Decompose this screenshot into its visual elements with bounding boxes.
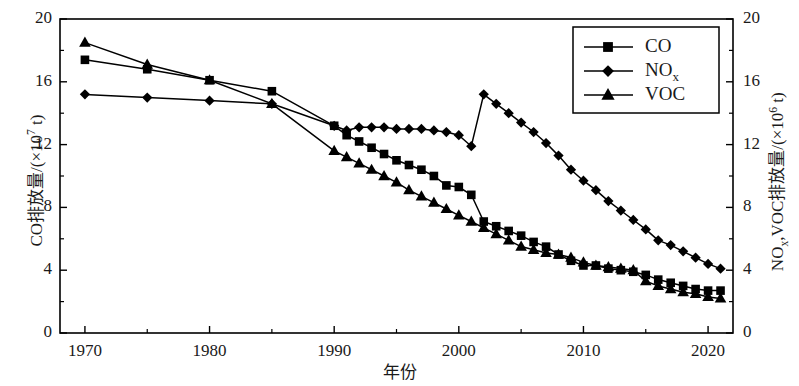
series-marker-nox <box>416 124 426 134</box>
series-marker-co <box>504 227 513 236</box>
series-marker-co <box>392 156 401 165</box>
series-marker-voc <box>341 151 353 161</box>
series-marker-voc <box>79 36 91 46</box>
legend-label-co[interactable]: CO <box>645 35 671 57</box>
y-axis-right-title: NOx,VOC排放量/(×106 t) <box>763 22 790 342</box>
x-axis-tick-label: 1980 <box>175 341 245 361</box>
x-axis-title: 年份 <box>0 358 799 383</box>
series-marker-co <box>430 172 439 181</box>
legend-marker-co <box>603 42 613 52</box>
y-axis-left-tick-label: 0 <box>12 322 52 342</box>
series-marker-co <box>380 150 389 159</box>
series-marker-co <box>355 137 364 146</box>
series-marker-voc <box>453 209 465 219</box>
series-marker-voc <box>465 215 477 225</box>
y-axis-right-tick-label: 12 <box>743 134 783 154</box>
series-marker-voc <box>441 203 453 213</box>
series-marker-co <box>455 183 464 192</box>
series-marker-nox <box>379 122 389 132</box>
series-marker-voc <box>353 157 365 167</box>
series-marker-nox <box>80 89 90 99</box>
series-marker-nox <box>142 92 152 102</box>
series-line-nox <box>85 94 721 268</box>
series-marker-nox <box>703 259 713 269</box>
x-axis-tick-label: 2020 <box>673 341 743 361</box>
series-marker-nox <box>429 125 439 135</box>
series-marker-co <box>442 181 451 190</box>
series-marker-co <box>81 56 90 65</box>
series-marker-voc <box>503 234 515 244</box>
series-marker-voc <box>515 241 527 251</box>
y-axis-right-tick-label: 20 <box>743 8 783 28</box>
series-marker-co <box>367 143 376 152</box>
y-axis-left-tick-label: 16 <box>12 71 52 91</box>
y-axis-right-tick-label: 4 <box>743 259 783 279</box>
chart-figure: CO排放量/(×107 t) NOx,VOC排放量/(×106 t) 年份 04… <box>0 0 799 386</box>
series-marker-co <box>417 165 426 174</box>
series-marker-nox <box>404 124 414 134</box>
series-marker-nox <box>441 127 451 137</box>
series-marker-voc <box>366 164 378 174</box>
y-axis-right-tick-label: 0 <box>743 322 783 342</box>
series-marker-voc <box>391 176 403 186</box>
x-axis-tick-label: 2010 <box>548 341 618 361</box>
y-axis-left-tick-label: 8 <box>12 196 52 216</box>
series-marker-nox <box>204 96 214 106</box>
series-marker-co <box>517 231 526 240</box>
series-marker-nox <box>366 122 376 132</box>
series-marker-nox <box>690 253 700 263</box>
series-marker-nox <box>391 124 401 134</box>
series-marker-co <box>467 191 476 200</box>
series-marker-nox <box>666 240 676 250</box>
x-axis-tick-label: 2000 <box>424 341 494 361</box>
series-marker-voc <box>378 170 390 180</box>
series-marker-voc <box>328 145 340 155</box>
series-marker-voc <box>428 197 440 207</box>
emissions-line-chart <box>0 0 799 386</box>
series-marker-nox <box>678 246 688 256</box>
series-marker-co <box>405 161 414 170</box>
series-marker-nox <box>715 264 725 274</box>
series-marker-nox <box>354 122 364 132</box>
y-axis-right-tick-label: 8 <box>743 196 783 216</box>
legend-label-nox[interactable]: NOx <box>645 59 679 85</box>
y-axis-right-tick-label: 16 <box>743 71 783 91</box>
legend-label-voc[interactable]: VOC <box>645 83 685 105</box>
y-axis-left-tick-label: 12 <box>12 134 52 154</box>
y-axis-left-tick-label: 20 <box>12 8 52 28</box>
y-axis-left-tick-label: 4 <box>12 259 52 279</box>
x-axis-tick-label: 1970 <box>50 341 120 361</box>
series-marker-voc <box>403 184 415 194</box>
series-marker-co <box>268 87 277 96</box>
x-axis-tick-label: 1990 <box>299 341 369 361</box>
series-marker-voc <box>416 190 428 200</box>
